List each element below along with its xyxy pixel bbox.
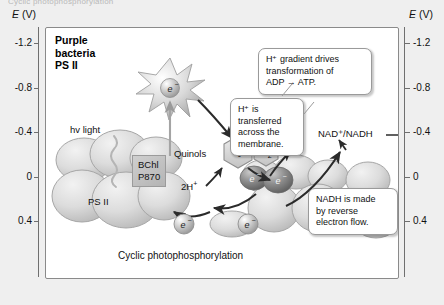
right-axis-unit: (V) (419, 8, 433, 20)
left-tick-3 (34, 132, 39, 133)
left-tick-2 (34, 88, 39, 89)
right-axis-title: E (V) (409, 8, 433, 20)
left-tick-1 (34, 43, 39, 44)
cut-off-header-text: Cyclic photophosphorylation (8, 0, 113, 6)
right-tick-label-2: -0.8 (413, 82, 430, 93)
right-tick-label-1: -1.2 (413, 37, 430, 48)
diagram-panel: Purple bacteria PS II (45, 27, 399, 279)
right-tick-2 (405, 88, 410, 89)
left-tick-label-4: 0 (0, 171, 32, 182)
right-tick-label-5: 0.4 (413, 215, 427, 226)
left-axis-line (38, 27, 39, 277)
right-tick-3 (405, 132, 410, 133)
right-tick-4 (405, 177, 410, 178)
right-tick-label-4: 0 (413, 171, 419, 182)
left-tick-5 (34, 221, 39, 222)
left-axis-symbol: E (12, 8, 19, 20)
left-axis-title: E (V) (12, 8, 36, 20)
left-axis-unit: (V) (22, 8, 36, 20)
left-tick-label-3: -0.4 (0, 126, 32, 137)
left-tick-4 (34, 177, 39, 178)
callout-leaders (46, 28, 398, 278)
right-axis-line (404, 27, 405, 277)
right-tick-1 (405, 43, 410, 44)
right-tick-label-3: -0.4 (413, 126, 430, 137)
right-tick-5 (405, 221, 410, 222)
right-axis-symbol: E (409, 8, 416, 20)
figure-root: Cyclic photophosphorylation E (V) E (V) … (0, 0, 444, 305)
left-tick-label-1: -1.2 (0, 37, 32, 48)
left-tick-label-2: -0.8 (0, 82, 32, 93)
left-tick-label-5: 0.4 (0, 215, 32, 226)
